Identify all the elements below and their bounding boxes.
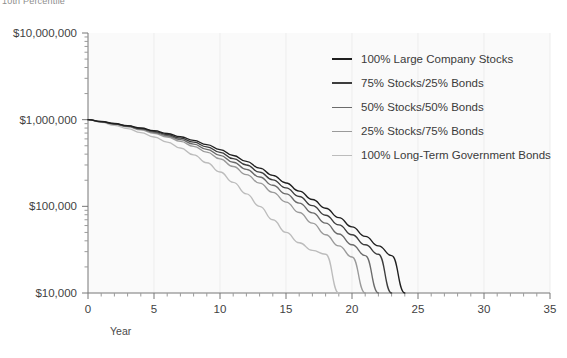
legend-color-swatch <box>332 131 352 132</box>
legend-item-label: 25% Stocks/75% Bonds <box>361 125 484 137</box>
legend-item-label: 50% Stocks/50% Bonds <box>361 101 484 113</box>
legend-color-swatch <box>332 107 352 108</box>
legend-color-swatch <box>332 155 352 156</box>
chart-legend: 100% Large Company Stocks 75% Stocks/25%… <box>332 47 551 167</box>
legend-item-label: 100% Large Company Stocks <box>361 53 513 65</box>
legend-item: 100% Long-Term Government Bonds <box>332 143 551 167</box>
x-axis-tick-label: 5 <box>151 303 157 315</box>
legend-color-swatch <box>332 58 352 60</box>
legend-color-swatch <box>332 82 352 84</box>
x-axis-tick-label: 35 <box>544 303 557 315</box>
x-axis-tick-label: 20 <box>346 303 359 315</box>
legend-item: 75% Stocks/25% Bonds <box>332 71 551 95</box>
y-axis-tick-label: $10,000 <box>0 287 77 299</box>
legend-item: 100% Large Company Stocks <box>332 47 551 71</box>
y-axis-tick-label: $1,000,000 <box>0 114 77 126</box>
legend-item-label: 100% Long-Term Government Bonds <box>361 149 551 161</box>
chart-container: 10th Percentile $10,000,000$1,000,000$10… <box>0 0 567 358</box>
legend-item: 50% Stocks/50% Bonds <box>332 95 551 119</box>
x-axis-tick-label: 25 <box>412 303 425 315</box>
x-axis-tick-label: 15 <box>280 303 293 315</box>
legend-item-label: 75% Stocks/25% Bonds <box>361 77 484 89</box>
y-axis-tick-label: $10,000,000 <box>0 27 77 39</box>
x-axis-tick-label: 0 <box>85 303 91 315</box>
x-axis-tick-label: 30 <box>478 303 491 315</box>
y-axis-tick-label: $100,000 <box>0 200 77 212</box>
x-axis-title: Year <box>110 325 131 337</box>
x-axis-tick-label: 10 <box>214 303 227 315</box>
legend-item: 25% Stocks/75% Bonds <box>332 119 551 143</box>
